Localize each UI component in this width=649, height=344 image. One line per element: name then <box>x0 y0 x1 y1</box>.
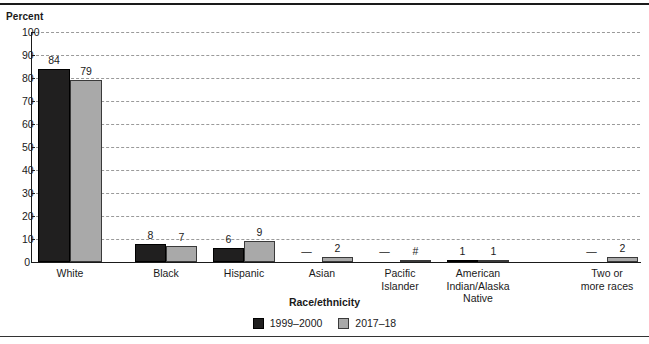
chart-figure: Percent 0102030405060708090100 84798769—… <box>0 0 649 344</box>
gridline <box>31 101 640 102</box>
y-axis-tick-label: 80 <box>22 73 30 84</box>
bar <box>213 248 244 262</box>
top-rule <box>0 3 649 5</box>
y-axis-tick-mark <box>31 262 35 263</box>
x-axis-category-label: Two ormore races <box>552 267 649 292</box>
bar <box>38 69 70 262</box>
gridline <box>31 32 640 33</box>
legend-label: 2017–18 <box>355 317 396 329</box>
y-axis-tick-mark <box>31 170 35 171</box>
bar-value-label: 1 <box>447 246 478 257</box>
bar-value-label: — <box>291 246 322 257</box>
y-axis-tick-mark <box>31 193 35 194</box>
y-axis-tick-label: 30 <box>22 188 30 199</box>
gridline <box>31 55 640 56</box>
bar-value-label: 1 <box>478 246 509 257</box>
bar-value-label: 9 <box>244 227 275 238</box>
y-axis-tick-label: 40 <box>22 165 30 176</box>
bar-value-label: 79 <box>70 66 102 77</box>
bar-value-label: 7 <box>166 232 197 243</box>
y-axis-tick-label: 20 <box>22 211 30 222</box>
bar-value-label: 8 <box>135 230 166 241</box>
bar-value-label: 84 <box>38 55 70 66</box>
legend-item: 2017–18 <box>338 317 396 329</box>
y-axis-tick-label: 90 <box>22 50 30 61</box>
bar <box>135 244 166 262</box>
series-1-swatch <box>253 318 264 329</box>
bar-value-label: 6 <box>213 234 244 245</box>
gridline <box>31 78 640 79</box>
bar <box>70 80 102 262</box>
y-axis-title: Percent <box>6 11 43 22</box>
y-axis-tick-mark <box>31 32 35 33</box>
y-axis-tick-mark <box>31 239 35 240</box>
y-axis-tick-mark <box>31 147 35 148</box>
category-label-line: more races <box>552 280 649 293</box>
bar-value-label: 2 <box>607 243 638 254</box>
gridline <box>31 216 640 217</box>
gridline <box>31 239 640 240</box>
bar <box>478 260 509 262</box>
chart-legend: 1999–20002017–18 <box>0 317 649 329</box>
bottom-rule <box>0 336 649 337</box>
bar-value-label: — <box>369 246 400 257</box>
x-axis-category-label: White <box>15 267 125 280</box>
y-axis-tick-mark <box>31 216 35 217</box>
gridline <box>31 170 640 171</box>
series-2-swatch <box>338 318 349 329</box>
y-axis-tick-mark <box>31 101 35 102</box>
x-axis-line <box>31 262 641 263</box>
bar <box>244 241 275 262</box>
bar <box>166 246 197 262</box>
bar-value-label: 2 <box>322 243 353 254</box>
bar <box>607 257 638 262</box>
y-axis-tick-label: 100 <box>22 27 30 38</box>
legend-label: 1999–2000 <box>270 317 323 329</box>
y-axis-tick-label: 10 <box>22 234 30 245</box>
y-axis-tick-mark <box>31 124 35 125</box>
gridline <box>31 193 640 194</box>
category-label-line: Two or <box>552 267 649 280</box>
gridline <box>31 147 640 148</box>
y-axis-tick-value: 0 <box>24 257 30 268</box>
bar <box>400 260 431 262</box>
bar <box>447 260 478 262</box>
bar-value-label: # <box>400 246 431 257</box>
y-axis-tick-label: 70 <box>22 96 30 107</box>
category-label-line: White <box>15 267 125 280</box>
y-axis-tick-label: 60 <box>22 119 30 130</box>
legend-item: 1999–2000 <box>253 317 323 329</box>
category-label-line: Indian/Alaska <box>423 280 533 293</box>
y-axis-tick-label: 0 <box>22 257 30 268</box>
y-axis-tick-mark <box>31 55 35 56</box>
bar-value-label: — <box>576 246 607 257</box>
gridline <box>31 124 640 125</box>
x-axis-title: Race/ethnicity <box>0 296 649 308</box>
category-label-line: American <box>423 267 533 280</box>
y-axis-tick-label: 50 <box>22 142 30 153</box>
y-axis-tick-mark <box>31 78 35 79</box>
bar <box>322 257 353 262</box>
